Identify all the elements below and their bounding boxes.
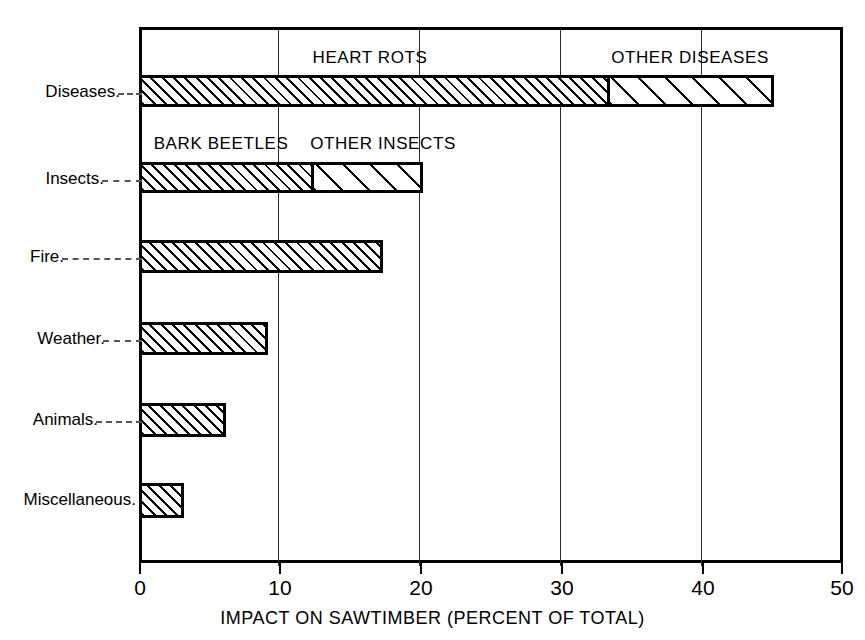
bar-segment-fire[interactable] — [142, 243, 380, 270]
category-label-animals: Animals. — [0, 410, 98, 430]
leader-line-weather — [103, 340, 142, 342]
axis-tick-0 — [139, 563, 141, 574]
axis-tick-label-30: 30 — [537, 576, 587, 600]
bar-animals[interactable] — [139, 403, 226, 437]
leader-line-fire — [62, 258, 142, 260]
leader-line-animals — [96, 421, 142, 423]
bar-segment-weather[interactable] — [142, 325, 265, 352]
leader-line-insects — [102, 180, 142, 182]
axis-tick-50 — [841, 563, 843, 574]
category-label-miscellaneous: Miscellaneous. — [0, 490, 136, 510]
bar-miscellaneous[interactable] — [139, 483, 184, 518]
axis-tick-10 — [279, 563, 281, 574]
bar-diseases[interactable] — [139, 75, 774, 107]
category-label-weather: Weather. — [0, 329, 105, 349]
gridline-20 — [419, 30, 420, 566]
bar-segment-bark-beetles[interactable] — [142, 165, 311, 190]
x-axis-title: IMPACT ON SAWTIMBER (PERCENT OF TOTAL) — [0, 608, 865, 629]
axis-tick-label-10: 10 — [255, 576, 305, 600]
bar-segment-heart-rots[interactable] — [142, 78, 607, 104]
bar-weather[interactable] — [139, 322, 268, 355]
segment-caption-heart-rots: HEART ROTS — [240, 48, 500, 68]
axis-tick-label-0: 0 — [115, 576, 165, 600]
segment-caption-other-diseases: OTHER DISEASES — [590, 48, 790, 68]
category-label-fire: Fire. — [0, 247, 64, 267]
segment-caption-bark-beetles: BARK BEETLES — [141, 134, 301, 154]
bar-segment-other-diseases[interactable] — [607, 78, 771, 104]
plot-area — [139, 27, 843, 563]
axis-tick-40 — [702, 563, 704, 574]
axis-tick-30 — [561, 563, 563, 574]
axis-tick-label-40: 40 — [678, 576, 728, 600]
axis-tick-label-50: 50 — [817, 576, 865, 600]
bar-segment-miscellaneous[interactable] — [142, 486, 181, 515]
bar-insects[interactable] — [139, 162, 423, 193]
chart-figure: HEART ROTS OTHER DISEASES BARK BEETLES O… — [0, 0, 865, 640]
bar-fire[interactable] — [139, 240, 383, 273]
category-label-insects: Insects. — [0, 169, 104, 189]
gridline-30 — [560, 30, 561, 566]
axis-tick-label-20: 20 — [396, 576, 446, 600]
gridline-10 — [278, 30, 279, 566]
segment-caption-other-insects: OTHER INSECTS — [303, 134, 463, 154]
bar-segment-other-insects[interactable] — [311, 165, 420, 190]
leader-line-diseases — [118, 93, 142, 95]
category-label-diseases: Diseases. — [0, 82, 120, 102]
bar-segment-animals[interactable] — [142, 406, 223, 434]
axis-tick-20 — [420, 563, 422, 574]
gridline-40 — [701, 30, 702, 566]
